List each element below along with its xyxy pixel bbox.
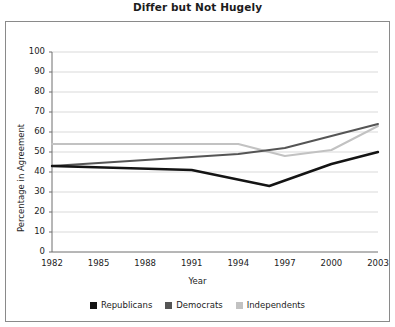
y-axis-tick-label: 80 xyxy=(19,86,45,96)
y-axis-tick-label: 0 xyxy=(19,246,45,256)
x-axis-tick-label: 1982 xyxy=(32,258,72,268)
x-axis-tick-label: 1985 xyxy=(79,258,119,268)
legend-swatch-democrats xyxy=(165,302,172,309)
x-axis-label: Year xyxy=(0,276,395,286)
y-axis-tick-label: 40 xyxy=(19,166,45,176)
legend-swatch-independents xyxy=(236,302,243,309)
legend-item-independents: Independents xyxy=(236,300,305,310)
y-axis-tick-label: 90 xyxy=(19,66,45,76)
legend-label-democrats: Democrats xyxy=(176,300,222,310)
chart-legend: Republicans Democrats Independents xyxy=(0,300,395,310)
y-axis-tick-label: 100 xyxy=(19,46,45,56)
x-axis-tick-label: 1991 xyxy=(172,258,212,268)
legend-item-republicans: Republicans xyxy=(90,300,152,310)
y-axis-tick-label: 60 xyxy=(19,126,45,136)
legend-item-democrats: Democrats xyxy=(165,300,222,310)
y-axis-tick-label: 10 xyxy=(19,226,45,236)
legend-label-republicans: Republicans xyxy=(101,300,152,310)
x-axis-tick-label: 2000 xyxy=(311,258,351,268)
x-axis-tick-label: 1988 xyxy=(125,258,165,268)
chart-figure: Differ but Not Hugely Percentage in Agre… xyxy=(0,0,395,327)
x-axis-tick-label: 2003 xyxy=(358,258,395,268)
y-axis-tick-label: 50 xyxy=(19,146,45,156)
legend-swatch-republicans xyxy=(90,302,97,309)
series-line-republicans xyxy=(52,152,378,186)
x-axis-tick-label: 1997 xyxy=(265,258,305,268)
y-axis-tick-label: 20 xyxy=(19,206,45,216)
y-axis-tick-label: 70 xyxy=(19,106,45,116)
legend-label-independents: Independents xyxy=(247,300,305,310)
y-axis-tick-label: 30 xyxy=(19,186,45,196)
x-axis-tick-label: 1994 xyxy=(218,258,258,268)
